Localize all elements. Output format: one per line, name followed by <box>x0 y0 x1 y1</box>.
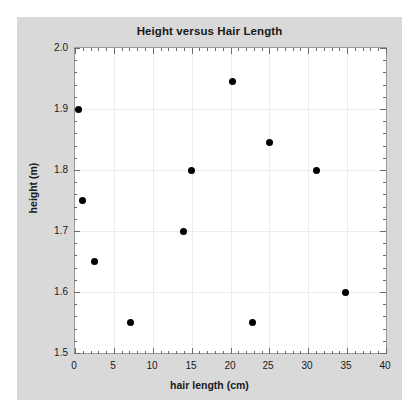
data-point <box>127 319 134 326</box>
y-tick-minor <box>74 207 77 208</box>
gridline-vertical <box>347 48 348 353</box>
y-tick-minor <box>74 158 77 159</box>
x-tick-minor-top <box>98 48 99 51</box>
y-tick-major <box>74 170 80 171</box>
x-tick-label: 20 <box>224 360 235 371</box>
x-tick-minor-top <box>207 48 208 51</box>
gridline-vertical <box>231 48 232 353</box>
plot-area <box>74 47 387 354</box>
data-point <box>79 197 86 204</box>
data-point <box>313 167 320 174</box>
y-tick-major <box>74 231 80 232</box>
chart-title: Height versus Hair Length <box>17 25 402 37</box>
y-tick-minor-right <box>383 182 386 183</box>
x-tick-minor <box>122 351 123 354</box>
x-tick-minor <box>378 351 379 354</box>
y-tick-minor <box>74 255 77 256</box>
x-tick-minor-top <box>129 48 130 51</box>
y-tick-label: 1.5 <box>32 347 68 358</box>
x-tick-major <box>269 348 270 354</box>
y-tick-minor <box>74 146 77 147</box>
y-tick-minor-right <box>383 268 386 269</box>
y-tick-minor-right <box>383 158 386 159</box>
x-tick-minor <box>246 351 247 354</box>
x-tick-major <box>386 348 387 354</box>
gridline-vertical <box>114 48 115 353</box>
x-tick-minor-top <box>145 48 146 51</box>
data-point <box>75 106 82 113</box>
x-tick-minor-top <box>184 48 185 51</box>
x-tick-major-top <box>231 48 232 54</box>
y-tick-minor <box>74 182 77 183</box>
y-tick-label: 2.0 <box>32 42 68 53</box>
x-tick-minor <box>207 351 208 354</box>
x-tick-minor-top <box>199 48 200 51</box>
x-tick-minor-top <box>285 48 286 51</box>
x-tick-minor-top <box>161 48 162 51</box>
x-tick-minor <box>254 351 255 354</box>
x-tick-minor <box>199 351 200 354</box>
x-tick-minor <box>277 351 278 354</box>
x-tick-minor <box>300 351 301 354</box>
x-tick-minor-top <box>176 48 177 51</box>
x-tick-minor-top <box>339 48 340 51</box>
y-tick-major-right <box>380 353 386 354</box>
x-tick-minor-top <box>355 48 356 51</box>
y-tick-major <box>74 353 80 354</box>
x-tick-minor-top <box>215 48 216 51</box>
x-tick-minor <box>83 351 84 354</box>
x-tick-minor <box>355 351 356 354</box>
y-tick-minor-right <box>383 146 386 147</box>
y-tick-minor <box>74 60 77 61</box>
x-tick-minor <box>316 351 317 354</box>
x-tick-minor-top <box>238 48 239 51</box>
gridline-vertical <box>308 48 309 353</box>
x-tick-minor <box>91 351 92 354</box>
x-tick-label: 0 <box>71 360 77 371</box>
y-tick-minor-right <box>383 329 386 330</box>
y-tick-minor-right <box>383 341 386 342</box>
y-tick-major-right <box>380 109 386 110</box>
y-tick-minor-right <box>383 280 386 281</box>
y-tick-minor <box>74 280 77 281</box>
x-tick-minor-top <box>332 48 333 51</box>
gridline-horizontal <box>75 109 386 110</box>
x-tick-minor-top <box>83 48 84 51</box>
data-point <box>266 139 273 146</box>
x-tick-minor <box>145 351 146 354</box>
y-tick-minor <box>74 304 77 305</box>
x-tick-minor <box>161 351 162 354</box>
x-tick-major <box>192 348 193 354</box>
x-tick-minor-top <box>137 48 138 51</box>
x-tick-major-top <box>153 48 154 54</box>
y-tick-minor-right <box>383 219 386 220</box>
y-tick-major-right <box>380 231 386 232</box>
y-tick-minor <box>74 97 77 98</box>
y-tick-minor-right <box>383 121 386 122</box>
x-tick-minor <box>262 351 263 354</box>
x-tick-minor-top <box>378 48 379 51</box>
x-tick-minor-top <box>324 48 325 51</box>
x-tick-label: 15 <box>185 360 196 371</box>
x-tick-minor-top <box>122 48 123 51</box>
x-tick-minor <box>98 351 99 354</box>
y-tick-minor-right <box>383 316 386 317</box>
x-tick-major <box>153 348 154 354</box>
data-point <box>229 78 236 85</box>
data-point <box>91 258 98 265</box>
x-tick-minor-top <box>106 48 107 51</box>
x-tick-minor-top <box>246 48 247 51</box>
y-tick-major <box>74 48 80 49</box>
y-tick-minor-right <box>383 194 386 195</box>
x-tick-minor-top <box>363 48 364 51</box>
x-tick-minor <box>184 351 185 354</box>
x-tick-minor-top <box>223 48 224 51</box>
y-tick-minor <box>74 341 77 342</box>
x-tick-minor <box>238 351 239 354</box>
y-tick-minor-right <box>383 97 386 98</box>
x-tick-label: 5 <box>110 360 116 371</box>
x-tick-major <box>308 348 309 354</box>
gridline-vertical <box>153 48 154 353</box>
x-tick-minor <box>370 351 371 354</box>
x-tick-minor-top <box>300 48 301 51</box>
